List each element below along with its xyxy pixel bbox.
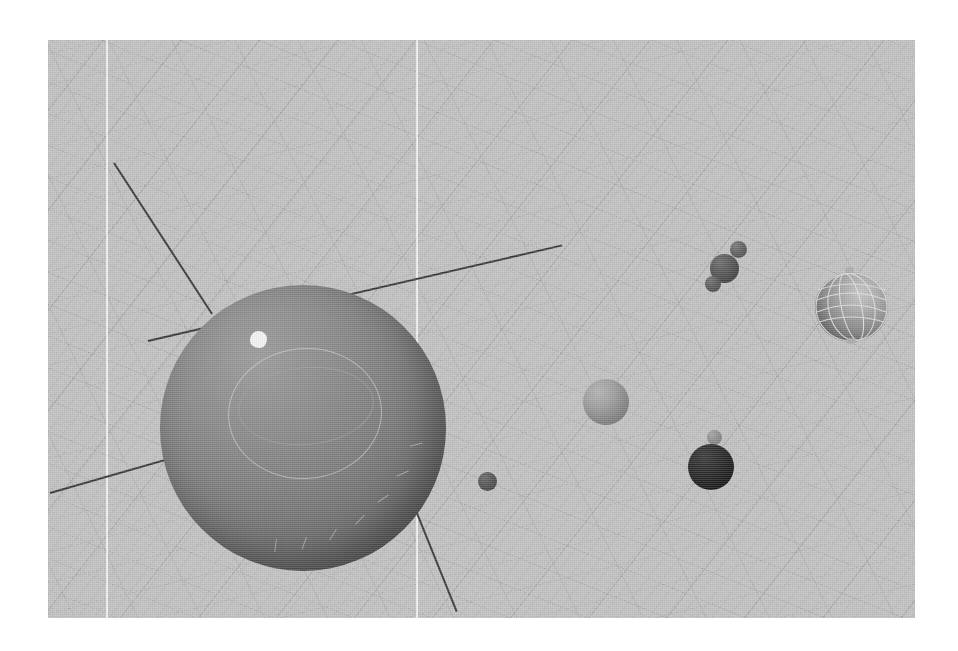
tiny-sphere[interactable] <box>707 430 722 445</box>
cluster-satellite-top <box>730 241 747 258</box>
limb-tick <box>329 529 337 541</box>
limb-tick <box>355 515 365 525</box>
cluster-satellite-bottom <box>705 276 721 292</box>
large-sphere[interactable] <box>160 285 446 571</box>
ground-grid-major <box>48 40 915 618</box>
ground-grid-secondary <box>48 40 915 618</box>
dark-sphere[interactable] <box>688 444 734 490</box>
app-root: grid_wp z y x <box>0 0 958 651</box>
limb-tick <box>396 471 408 477</box>
sphere-cluster[interactable] <box>704 240 752 298</box>
specular-highlight <box>250 331 267 348</box>
limb-tick <box>410 443 423 447</box>
construction-line-left <box>106 40 108 618</box>
globe-pole-marker-top <box>845 267 854 273</box>
small-dark-sphere[interactable] <box>478 472 497 491</box>
construction-line-center <box>416 40 418 618</box>
limb-tick <box>302 537 307 550</box>
medium-grey-sphere[interactable] <box>583 379 629 425</box>
axis-line-upper-left <box>113 162 213 314</box>
globe-wireframe-icon <box>815 272 888 342</box>
limb-tick <box>377 495 388 503</box>
viewport-3d[interactable]: grid_wp z y x <box>48 40 915 618</box>
limb-tick <box>274 539 277 552</box>
wireframe-globe[interactable] <box>815 272 888 342</box>
ground-grid-minor <box>48 40 915 618</box>
globe-pole-marker-bottom <box>847 338 856 344</box>
